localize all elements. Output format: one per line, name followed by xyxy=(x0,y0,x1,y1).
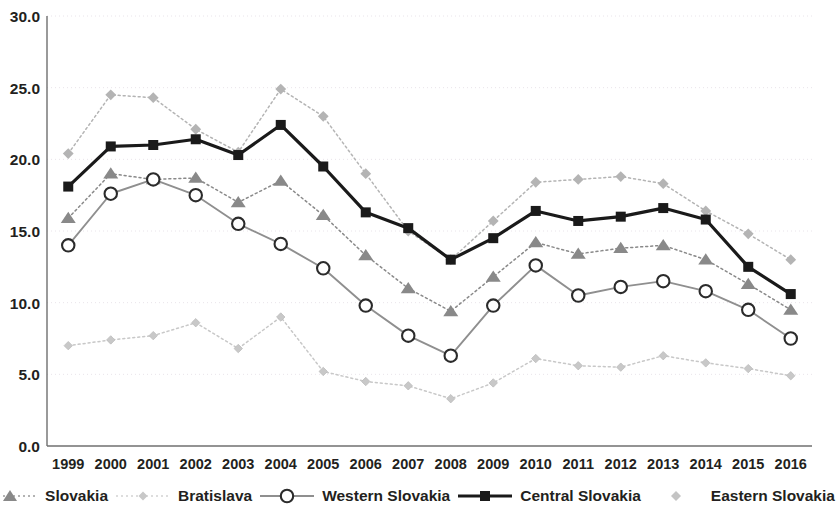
x-tick-label: 2015 xyxy=(732,456,764,470)
small-diamond-icon xyxy=(112,486,174,506)
marker-circle xyxy=(402,329,414,341)
marker-circle xyxy=(275,238,287,250)
marker-square xyxy=(318,162,328,172)
marker-circle xyxy=(742,304,754,316)
y-tick-label: 10.0 xyxy=(10,295,40,312)
marker-square xyxy=(63,182,73,192)
marker-triangle xyxy=(188,172,203,183)
marker-square xyxy=(786,289,796,299)
marker-diamond xyxy=(574,362,582,370)
legend-label: Bratislava xyxy=(174,487,256,505)
triangle-icon xyxy=(0,486,41,506)
marker-square xyxy=(233,150,243,160)
marker-light-square xyxy=(105,89,116,100)
marker-light-square xyxy=(615,171,626,182)
x-tick-label: 2005 xyxy=(307,456,339,470)
filled-square-icon xyxy=(454,486,516,506)
y-tick-label: 20.0 xyxy=(10,151,40,168)
marker-circle xyxy=(445,350,457,362)
marker-circle xyxy=(62,239,74,251)
legend-item-eastern-slovakia[interactable]: Eastern Slovakia xyxy=(645,486,839,506)
x-tick-label: 2013 xyxy=(647,456,679,470)
marker-square xyxy=(743,262,753,272)
series-slovakia xyxy=(61,167,799,316)
marker-square xyxy=(701,215,711,225)
x-tick-label: 2010 xyxy=(520,456,552,470)
gridlines xyxy=(47,16,812,374)
marker-square xyxy=(276,120,286,130)
marker-circle xyxy=(487,299,499,311)
marker-triangle xyxy=(273,174,288,185)
series-layer xyxy=(61,84,799,403)
marker-circle xyxy=(360,299,372,311)
open-circle-icon xyxy=(256,486,318,506)
plot-area: 0.05.010.015.020.025.030.0 1999200020012… xyxy=(0,0,818,470)
marker-square xyxy=(616,212,626,222)
legend-label: Central Slovakia xyxy=(516,487,645,505)
x-tick-label: 2006 xyxy=(350,456,382,470)
legend-item-slovakia[interactable]: Slovakia xyxy=(0,486,112,506)
marker-light-square xyxy=(360,168,371,179)
marker-circle xyxy=(615,281,627,293)
marker-circle xyxy=(317,262,329,274)
y-tick-label: 0.0 xyxy=(18,438,40,455)
y-tick-label: 5.0 xyxy=(18,366,40,383)
x-tick-label: 2012 xyxy=(605,456,637,470)
marker-square xyxy=(361,207,371,217)
marker-circle xyxy=(190,189,202,201)
marker-circle xyxy=(147,173,159,185)
marker-light-square xyxy=(275,84,286,95)
legend-item-central-slovakia[interactable]: Central Slovakia xyxy=(454,486,645,506)
marker-diamond xyxy=(404,382,412,390)
legend-label: Eastern Slovakia xyxy=(707,487,839,505)
chart-legend: SlovakiaBratislavaWestern SlovakiaCentra… xyxy=(0,470,818,522)
x-tick-label: 2007 xyxy=(392,456,424,470)
marker-circle xyxy=(572,289,584,301)
marker-triangle xyxy=(231,196,246,207)
marker-triangle xyxy=(741,278,756,289)
marker-square xyxy=(573,216,583,226)
series-bratislava xyxy=(64,313,795,403)
light-square-icon xyxy=(645,486,707,506)
marker-diamond xyxy=(787,372,795,380)
axes xyxy=(47,16,812,446)
legend-item-bratislava[interactable]: Bratislava xyxy=(112,486,256,506)
marker-circle xyxy=(657,275,669,287)
marker-diamond xyxy=(149,331,157,339)
chart-svg: 0.05.010.015.020.025.030.0 1999200020012… xyxy=(0,0,818,470)
marker-diamond xyxy=(362,377,370,385)
x-tick-label: 2003 xyxy=(222,456,254,470)
legend-item-western-slovakia[interactable]: Western Slovakia xyxy=(256,486,454,506)
series-central-slovakia xyxy=(63,120,796,299)
legend-label: Slovakia xyxy=(41,487,112,505)
marker-circle xyxy=(105,188,117,200)
marker-square xyxy=(148,140,158,150)
marker-diamond xyxy=(489,379,497,387)
marker-light-square xyxy=(658,178,669,189)
marker-diamond xyxy=(107,336,115,344)
series-line xyxy=(68,125,791,294)
x-tick-label: 2016 xyxy=(775,456,807,470)
series-western-slovakia xyxy=(62,173,797,362)
y-tick-label: 25.0 xyxy=(10,80,40,97)
x-tick-label: 2004 xyxy=(265,456,297,470)
y-tick-label: 15.0 xyxy=(10,223,40,240)
marker-triangle xyxy=(783,303,798,314)
marker-diamond xyxy=(234,344,242,352)
marker-triangle xyxy=(103,167,118,178)
marker-diamond xyxy=(192,319,200,327)
legend-label: Western Slovakia xyxy=(318,487,454,505)
series-line xyxy=(68,317,791,399)
x-tick-label: 2011 xyxy=(563,456,594,470)
x-tick-label: 2002 xyxy=(180,456,212,470)
marker-diamond xyxy=(532,354,540,362)
marker-circle xyxy=(530,259,542,271)
marker-light-square xyxy=(190,124,201,135)
marker-circle xyxy=(700,285,712,297)
series-eastern-slovakia xyxy=(63,84,796,265)
x-axis-tick-labels: 1999200020012002200320042005200620072008… xyxy=(52,456,807,470)
marker-square xyxy=(191,134,201,144)
marker-diamond xyxy=(64,341,72,349)
marker-square xyxy=(106,141,116,151)
